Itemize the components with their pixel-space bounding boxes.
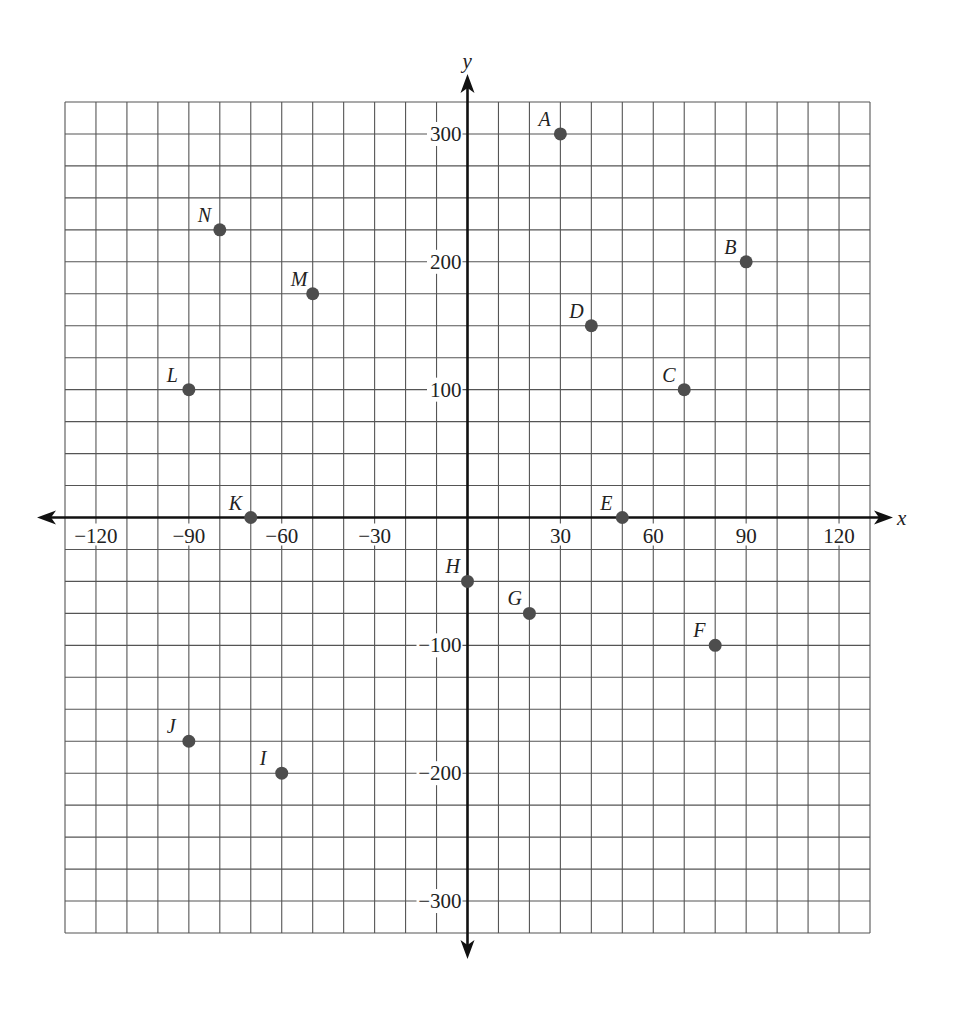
x-axis-label: x	[896, 506, 907, 530]
data-point-label: C	[662, 364, 676, 386]
data-point-label: A	[536, 108, 551, 130]
data-point-marker	[585, 319, 598, 332]
data-point-label: L	[166, 364, 178, 386]
data-point-marker	[554, 127, 567, 140]
y-axis-label: y	[461, 49, 473, 73]
y-tick-label: 100	[430, 378, 462, 402]
x-tick-label: 30	[550, 524, 571, 548]
data-point-label: N	[197, 204, 213, 226]
y-tick-label: −100	[418, 633, 461, 657]
y-tick-label: 300	[430, 122, 462, 146]
data-point-marker	[616, 511, 629, 524]
data-point-marker	[182, 735, 195, 748]
x-tick-label: 120	[823, 524, 855, 548]
data-point-label: F	[692, 619, 706, 641]
data-point-marker	[740, 255, 753, 268]
data-point-label: M	[290, 268, 309, 290]
y-tick-label: 200	[430, 250, 462, 274]
data-point-marker	[461, 575, 474, 588]
y-tick-label: −200	[418, 761, 461, 785]
data-point-marker	[182, 383, 195, 396]
data-point-label: J	[167, 715, 177, 737]
x-tick-label: −30	[358, 524, 391, 548]
data-point-marker	[523, 607, 536, 620]
data-point-label: B	[724, 236, 736, 258]
data-point-marker	[678, 383, 691, 396]
x-tick-label: −90	[172, 524, 205, 548]
data-points: ABCDEFGHIJKLMN	[166, 108, 753, 780]
y-tick-label: −300	[418, 889, 461, 913]
coordinate-plane: xy −120−90−60−30306090120300200100−100−2…	[0, 0, 958, 1013]
data-point-label: H	[445, 555, 462, 577]
x-tick-label: 90	[736, 524, 757, 548]
data-point-marker	[275, 767, 288, 780]
x-tick-label: 60	[643, 524, 664, 548]
data-point-label: I	[259, 747, 268, 769]
data-point-label: D	[568, 300, 584, 322]
data-point-label: E	[599, 492, 612, 514]
data-point-label: K	[228, 492, 244, 514]
data-point-marker	[213, 223, 226, 236]
x-tick-label: −60	[265, 524, 298, 548]
data-point-label: G	[507, 587, 522, 609]
x-tick-label: −120	[74, 524, 117, 548]
data-point-marker	[709, 639, 722, 652]
data-point-marker	[244, 511, 257, 524]
axes: xy	[37, 49, 907, 959]
data-point-marker	[306, 287, 319, 300]
